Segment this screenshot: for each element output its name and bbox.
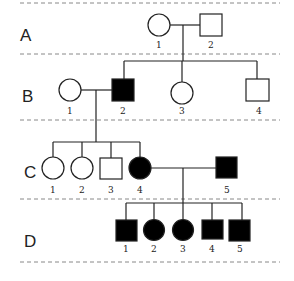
- label-c5: 5: [224, 185, 230, 195]
- generation-label-a: A: [20, 26, 32, 45]
- label-b3: 3: [179, 106, 185, 116]
- label-b1: 1: [67, 106, 73, 116]
- individual-c4-female-affected: [129, 157, 151, 179]
- label-b4: 4: [256, 106, 262, 116]
- generation-label-c: C: [24, 163, 36, 182]
- generation-label-b: B: [22, 87, 33, 106]
- individual-b4-male: [246, 79, 269, 101]
- individual-a2-male: [200, 14, 222, 36]
- individual-d3-female-affected: [173, 220, 194, 241]
- label-c2: 2: [79, 185, 85, 195]
- individual-c1-female: [42, 157, 64, 179]
- label-c1: 1: [50, 185, 56, 195]
- generation-label-d: D: [24, 232, 36, 251]
- label-d2: 2: [151, 244, 157, 254]
- label-b2: 2: [120, 106, 126, 116]
- individual-c2-female: [71, 157, 93, 179]
- individual-a1-female: [148, 14, 170, 36]
- label-d1: 1: [123, 244, 129, 254]
- individual-c5-male-affected: [216, 157, 237, 178]
- label-c3: 3: [108, 185, 114, 195]
- individual-b2-male-affected: [112, 79, 134, 101]
- label-c4: 4: [137, 185, 143, 195]
- label-d4: 4: [209, 244, 215, 254]
- individual-d4-male-affected: [202, 220, 223, 239]
- individual-d2-female-affected: [144, 220, 165, 241]
- individual-d5-male-affected: [229, 220, 250, 241]
- label-a2: 2: [208, 40, 214, 50]
- label-d3: 3: [180, 244, 186, 254]
- label-a1: 1: [156, 40, 162, 50]
- pedigree-chart: A B C D 1 2 1 2: [0, 0, 294, 281]
- individual-c3-male: [100, 158, 122, 179]
- individual-d1-male-affected: [116, 220, 137, 241]
- individual-b3-female: [171, 82, 193, 104]
- individual-b1-female: [59, 79, 81, 101]
- label-d5: 5: [237, 244, 243, 254]
